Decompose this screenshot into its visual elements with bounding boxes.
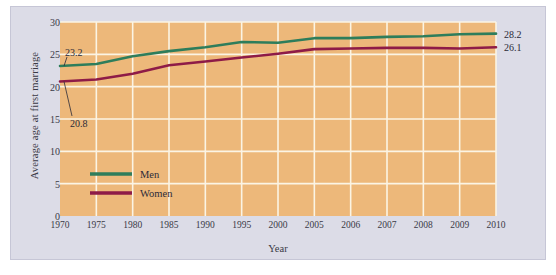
y-tick-label: 30 [34,17,60,28]
x-tick-label: 1975 [87,220,106,230]
x-axis-title: Year [0,243,556,254]
y-axis-title: Average age at first marriage [29,36,40,196]
x-tick-label: 1985 [160,220,179,230]
series-end-label: 28.2 [504,28,522,39]
series-start-label: 20.8 [70,118,88,129]
series-start-label: 23.2 [65,47,83,58]
x-tick-label: 2006 [341,220,360,230]
x-tick-label: 2008 [414,220,433,230]
x-tick-label: 1990 [196,220,215,230]
x-tick-label: 2010 [487,220,506,230]
x-tick-label: 2000 [269,220,288,230]
x-tick-label: 1970 [51,220,70,230]
x-tick-label: 2009 [450,220,469,230]
line-chart-canvas [0,0,556,275]
chart-figure: 051015202530 197019751980198519901995200… [0,0,556,275]
x-tick-label: 2007 [378,220,397,230]
x-tick-label: 1980 [123,220,142,230]
legend-label-men: Men [140,169,159,180]
x-tick-label: 1995 [232,220,251,230]
plot-wrapper: 051015202530 197019751980198519901995200… [0,0,556,275]
series-end-label: 26.1 [504,42,522,53]
x-tick-label: 2005 [305,220,324,230]
legend-label-women: Women [140,188,172,199]
